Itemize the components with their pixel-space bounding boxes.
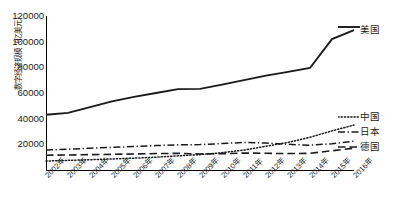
y-axis-tick: 40000 <box>0 114 44 124</box>
legend-swatch <box>338 142 360 152</box>
series-line-jp <box>46 141 354 150</box>
y-axis-tick: 100000 <box>0 37 44 47</box>
series-lines <box>46 16 354 170</box>
y-axis-tick: 60000 <box>0 88 44 98</box>
y-axis-tick: 120000 <box>0 11 44 21</box>
x-axis-tick-labels: 2002年2003年2004年2005年2006年2007年2008年2009年… <box>46 172 366 214</box>
legend-swatch <box>338 112 360 122</box>
series-line-us <box>46 30 354 115</box>
legend-swatch <box>338 127 360 137</box>
legend-label-us: 美国 <box>360 25 380 35</box>
x-axis-tick: 2016年 <box>352 156 375 179</box>
y-axis-tick: 80000 <box>0 62 44 72</box>
digital-economy-line-chart: 数字经济规模（亿美元） 1200001000008000060000400002… <box>0 0 413 214</box>
plot-area <box>46 16 354 170</box>
y-axis-tick: 20000 <box>0 139 44 149</box>
legend-swatch <box>338 22 360 32</box>
series-line-cn <box>46 125 354 161</box>
y-axis-tick-labels: 12000010000080000600004000020000 <box>0 0 44 214</box>
legend-label-jp: 日本 <box>360 127 380 137</box>
legend-label-cn: 中国 <box>360 112 380 122</box>
legend-label-de: 德国 <box>360 142 380 152</box>
series-line-de <box>46 148 354 155</box>
